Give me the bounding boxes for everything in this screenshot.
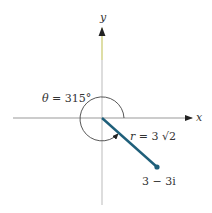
point-marker: [154, 164, 159, 169]
point-label: 3 − 3i: [142, 176, 176, 187]
x-axis-label: x: [196, 112, 202, 123]
angle-value: 315°: [65, 92, 92, 105]
angle-label: θ = 315°: [42, 93, 91, 104]
theta-symbol: θ: [42, 92, 49, 105]
sqrt-two: √2: [162, 130, 176, 143]
vector-line: [102, 118, 160, 170]
y-axis-label: y: [100, 12, 106, 23]
complex-plane-diagram: [0, 0, 212, 213]
radius-label: r = 3 √2: [130, 131, 176, 142]
